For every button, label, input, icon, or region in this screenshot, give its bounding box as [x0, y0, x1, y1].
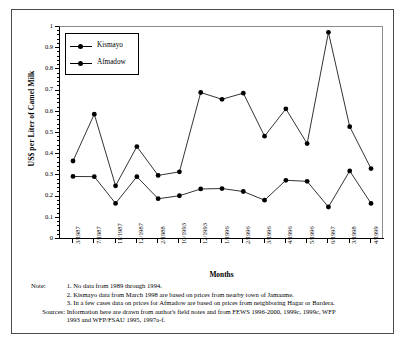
- data-point-afmadow: [92, 112, 97, 117]
- x-axis-tick-label: 12/1987: [138, 223, 144, 244]
- note-number: 3.: [67, 299, 72, 308]
- chart-legend: Kismayo Afmadow: [65, 33, 139, 75]
- data-point-afmadow: [113, 183, 118, 188]
- data-point-kismayo: [369, 201, 374, 206]
- y-axis-tick-label: 0.8: [23, 65, 53, 72]
- y-axis-tick-label: 0.7: [23, 86, 53, 93]
- data-point-kismayo: [113, 201, 118, 206]
- sources-line-2: 1993 and WFP/FSAU 1995, 1997a-f.: [31, 316, 381, 325]
- data-point-kismayo: [220, 186, 225, 191]
- data-point-kismayo: [156, 196, 161, 201]
- x-axis-tick-label: 11/1987: [117, 223, 123, 244]
- legend-item-kismayo[interactable]: Kismayo: [70, 40, 138, 53]
- y-axis-tick-label: 0.9: [23, 44, 53, 51]
- x-axis-tick-label: 7/1987: [96, 226, 102, 244]
- x-axis-tick-label: 3/1996: [266, 226, 272, 244]
- data-point-kismayo: [71, 174, 76, 179]
- data-point-afmadow: [262, 134, 267, 139]
- note-text: No data from 1989 through 1994.: [73, 282, 162, 289]
- data-point-afmadow: [134, 144, 139, 149]
- note-number: 2.: [67, 291, 72, 300]
- y-axis-tick-label: 0.6: [23, 108, 53, 115]
- data-point-kismayo: [283, 178, 288, 183]
- x-axis-tick: [370, 239, 371, 243]
- note-text: In a few cases data on prices for Afmado…: [73, 299, 334, 306]
- x-axis-tick: [72, 239, 73, 243]
- data-point-afmadow: [283, 106, 288, 111]
- legend-marker-line-icon: [70, 45, 92, 48]
- figure-container: US$ per Liter of Camel Milk 00.10.20.30.…: [11, 9, 394, 334]
- y-axis-tick-label: 0: [23, 235, 53, 242]
- data-point-kismayo: [134, 174, 139, 179]
- x-axis-tick: [221, 239, 222, 243]
- x-axis-tick-label: 5/1996: [309, 226, 315, 244]
- sources-line-1: Sources: Information here are drawn from…: [31, 308, 381, 317]
- x-axis-tick-label: 3/1987: [75, 226, 81, 244]
- x-axis-title: Months: [59, 270, 384, 279]
- y-axis-tick-label: 0.4: [23, 150, 53, 157]
- data-point-kismayo: [198, 187, 203, 192]
- legend-marker-line-icon: [70, 62, 92, 65]
- legend-label: Kismayo: [97, 40, 123, 51]
- x-axis-tick-label: 2/1996: [245, 226, 251, 244]
- data-point-afmadow: [326, 30, 331, 35]
- x-axis-tick-label: 10/1993: [181, 223, 187, 244]
- x-axis-tick-label: 4/1999: [373, 226, 379, 244]
- data-point-afmadow: [220, 97, 225, 102]
- sources-text: Information here are drawn from author's…: [67, 308, 336, 315]
- x-axis-tick-label: 1/1996: [224, 226, 230, 244]
- note-line-1: Note: 1. No data from 1989 through 1994.: [31, 282, 381, 291]
- data-point-afmadow: [241, 91, 246, 96]
- data-point-kismayo: [347, 169, 352, 174]
- data-point-afmadow: [347, 124, 352, 129]
- legend-label: Afmadow: [97, 57, 126, 68]
- data-point-afmadow: [71, 159, 76, 164]
- x-axis-tick-label: 12/1993: [202, 223, 208, 244]
- x-axis-tick-label: 6/1997: [330, 226, 336, 244]
- y-axis-tick-label: 0.3: [23, 171, 53, 178]
- sources-label: Sources:: [31, 308, 65, 317]
- data-point-kismayo: [305, 179, 310, 184]
- note-text: Kismayo data from March 1998 are based o…: [73, 291, 293, 298]
- data-point-kismayo: [241, 189, 246, 194]
- y-axis-tick-label: 1: [23, 23, 53, 30]
- x-axis-tick-label: 2/1988: [160, 226, 166, 244]
- x-axis-tick-label: 4/1996: [287, 226, 293, 244]
- x-axis-tick: [306, 239, 307, 243]
- data-point-afmadow: [198, 90, 203, 95]
- y-axis-tick-label: 0.5: [23, 129, 53, 136]
- note-line-2: 2. Kismayo data from March 1998 are base…: [31, 291, 381, 300]
- x-axis-tick-label: 3/1998: [351, 226, 357, 244]
- data-point-afmadow: [177, 169, 182, 174]
- data-point-kismayo: [262, 198, 267, 203]
- legend-item-afmadow[interactable]: Afmadow: [70, 57, 138, 70]
- data-point-kismayo: [326, 205, 331, 210]
- data-point-kismayo: [92, 174, 97, 179]
- data-point-kismayo: [177, 193, 182, 198]
- notes-block: Note: 1. No data from 1989 through 1994.…: [31, 282, 381, 325]
- data-point-afmadow: [305, 141, 310, 146]
- y-axis-tick-labels: 00.10.20.30.40.50.60.70.80.91: [12, 10, 53, 250]
- notes-label: Note:: [31, 282, 65, 291]
- y-axis-tick-label: 0.2: [23, 192, 53, 199]
- data-point-afmadow: [369, 166, 374, 171]
- note-number: 1.: [67, 282, 72, 291]
- note-line-3: 3. In a few cases data on prices for Afm…: [31, 299, 381, 308]
- sources-text: 1993 and WFP/FSAU 1995, 1997a-f.: [67, 316, 165, 323]
- x-axis-tick: [157, 239, 158, 243]
- y-axis-tick-label: 0.1: [23, 214, 53, 221]
- data-point-afmadow: [156, 173, 161, 178]
